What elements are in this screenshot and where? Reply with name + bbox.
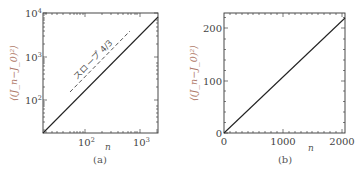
panel-a-y-ticks [43,13,158,130]
panel-b-x-ticks [230,13,342,133]
panel-b-xlabel: n [308,143,314,153]
panel-b-ylabel: ⟨(J_n−J_0)²⟩ [188,45,200,101]
panel-b-xtick-1000: 1000 [270,136,295,147]
panel-b-data-line [224,18,345,133]
panel-a-ytick-1e3: 103 [25,51,42,63]
panel-a-x-ticks [46,13,157,133]
panel-a-slope-annotation: スロープ 4/3 [71,38,114,82]
panel-b-xtick-0: 0 [221,136,227,147]
figure: 104 103 102 102 103 ⟨(J_n−J_0)²⟩ n スロープ … [0,0,355,177]
panel-a-xlabel: n [105,142,111,152]
panel-a: 104 103 102 102 103 ⟨(J_n−J_0)²⟩ n スロープ … [8,7,158,165]
panel-a-data-line [43,17,158,133]
panel-a-ylabel: ⟨(J_n−J_0)²⟩ [8,45,20,101]
panel-a-caption: (a) [93,154,107,165]
panel-b: 0 100 200 0 1000 2000 ⟨(J_n−J_0)²⟩ n (b) [188,13,355,165]
panel-b-caption: (b) [278,154,292,165]
panel-b-ytick-200: 200 [203,23,222,34]
panel-a-xtick-1e2: 102 [78,136,95,148]
panel-a-ytick-1e2: 102 [25,94,42,106]
panel-b-xtick-2000: 2000 [329,136,354,147]
panel-a-slope-guide [70,31,130,92]
panel-a-xtick-1e3: 103 [133,136,150,148]
panel-b-ytick-100: 100 [203,76,222,87]
panel-a-ytick-1e4: 104 [25,7,42,19]
